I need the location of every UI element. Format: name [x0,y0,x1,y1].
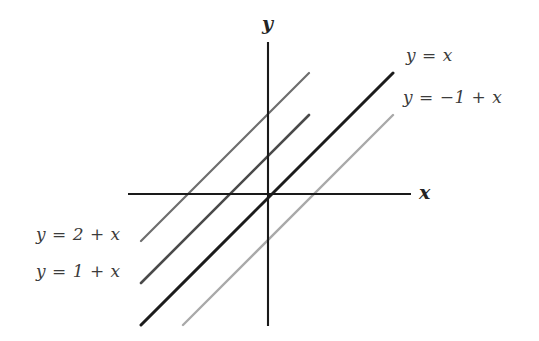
y-axis-label: y [262,14,274,33]
line-y-equals-2-plus-x [141,73,309,241]
line-label-y-equals-minus-1-plus-x: y = −1 + x [403,89,502,106]
line-y-equals-minus-1-plus-x [183,115,393,325]
line-label-y-equals-x: y = x [406,47,453,64]
x-axis-label: x [419,183,431,202]
line-plot [0,0,539,341]
line-label-y-equals-2-plus-x: y = 2 + x [36,226,121,243]
line-label-y-equals-1-plus-x: y = 1 + x [36,263,121,280]
figure-canvas: y x y = x y = −1 + x y = 2 + x y = 1 + x [0,0,539,341]
line-y-equals-1-plus-x [141,115,309,283]
